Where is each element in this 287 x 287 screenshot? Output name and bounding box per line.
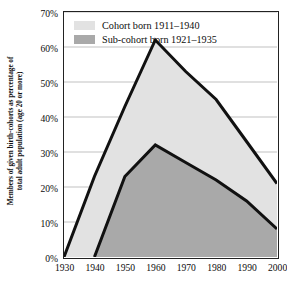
y-tick-label-60: 60%: [40, 42, 58, 53]
legend-swatch-subcohort: [74, 35, 95, 44]
chart-legend: Cohort born 1911–1940 Sub-cohort born 19…: [74, 19, 274, 47]
series-layer: [64, 40, 277, 257]
y-axis-tick-labels: 0%10%20%30%40%50%60%70%: [26, 0, 62, 262]
x-tick-label-1950: 1950: [116, 262, 135, 273]
x-axis-tick-labels: 19301940195019601970198019902000: [0, 259, 287, 283]
legend-item-cohort: Cohort born 1911–1940: [74, 19, 274, 32]
x-tick-label-1970: 1970: [177, 262, 196, 273]
legend-label-subcohort: Sub-cohort born 1921–1935: [102, 34, 217, 45]
x-tick-label-2000: 2000: [268, 262, 287, 273]
y-tick-label-40: 40%: [40, 112, 58, 123]
y-tick-label-50: 50%: [40, 77, 58, 88]
y-tick-label-10: 10%: [40, 217, 58, 228]
x-tick-label-1960: 1960: [146, 262, 165, 273]
chart-figure: Members of given birth-cohorts as percen…: [0, 0, 287, 287]
y-axis-title-line-1: Members of given birth-cohorts as percen…: [6, 57, 15, 206]
x-tick-label-1990: 1990: [238, 262, 257, 273]
y-tick-label-30: 30%: [40, 147, 58, 158]
chart-plot-svg: [64, 12, 277, 257]
legend-swatch-cohort: [74, 21, 95, 30]
x-tick-label-1930: 1930: [55, 262, 74, 273]
legend-item-subcohort: Sub-cohort born 1921–1935: [74, 33, 274, 46]
x-tick-label-1980: 1980: [207, 262, 226, 273]
x-tick-label-1940: 1940: [85, 262, 104, 273]
y-tick-label-20: 20%: [40, 182, 58, 193]
y-axis-title-line-2: total adult population (age 20 or more): [15, 8, 24, 254]
plot-area: [63, 11, 279, 259]
y-tick-label-70: 70%: [40, 7, 58, 18]
legend-label-cohort: Cohort born 1911–1940: [102, 20, 200, 31]
